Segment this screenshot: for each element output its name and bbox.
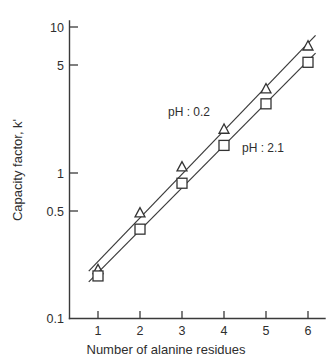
x-axis-title: Number of alanine residues: [87, 342, 246, 357]
x-tick-label-6: 6: [305, 324, 312, 338]
y-tick-marks: [70, 27, 79, 211]
data-point-marker: [177, 162, 187, 171]
y-tick-labels: 10 5 1 0.5 0.1: [47, 21, 64, 327]
scatter-plot: 10 5 1 0.5 0.1 1 2 3 4 5 6 Number of ala…: [0, 0, 332, 361]
data-point-marker: [219, 124, 229, 133]
y-tick-label-10: 10: [50, 21, 64, 35]
data-point-marker: [93, 271, 103, 281]
data-point-marker: [261, 84, 271, 93]
data-point-marker: [135, 224, 145, 234]
x-tick-label-5: 5: [263, 324, 270, 338]
series-2: [89, 53, 316, 282]
data-point-marker: [261, 99, 271, 109]
y-tick-label-5: 5: [57, 59, 64, 73]
data-point-marker: [135, 208, 145, 217]
y-tick-label-0-5: 0.5: [47, 205, 64, 219]
x-tick-label-3: 3: [179, 324, 186, 338]
trend-line-2: [89, 53, 316, 282]
y-tick-label-1: 1: [57, 167, 64, 181]
x-tick-label-2: 2: [137, 324, 144, 338]
data-point-marker: [177, 178, 187, 188]
data-point-marker: [219, 140, 229, 150]
annotation-ph-0-2: pH : 0.2: [168, 105, 210, 119]
x-tick-labels: 1 2 3 4 5 6: [95, 324, 312, 338]
y-axis-title: Capacity factor, k': [10, 119, 25, 221]
x-tick-marks: [98, 311, 308, 319]
y-tick-label-0-1: 0.1: [47, 312, 64, 326]
x-tick-label-4: 4: [221, 324, 228, 338]
annotation-ph-2-1: pH : 2.1: [242, 141, 284, 155]
x-tick-label-1: 1: [95, 324, 102, 338]
data-point-marker: [303, 41, 313, 50]
figure-container: 10 5 1 0.5 0.1 1 2 3 4 5 6 Number of ala…: [0, 0, 332, 361]
data-series-layer: [89, 35, 316, 281]
data-point-marker: [303, 57, 313, 67]
